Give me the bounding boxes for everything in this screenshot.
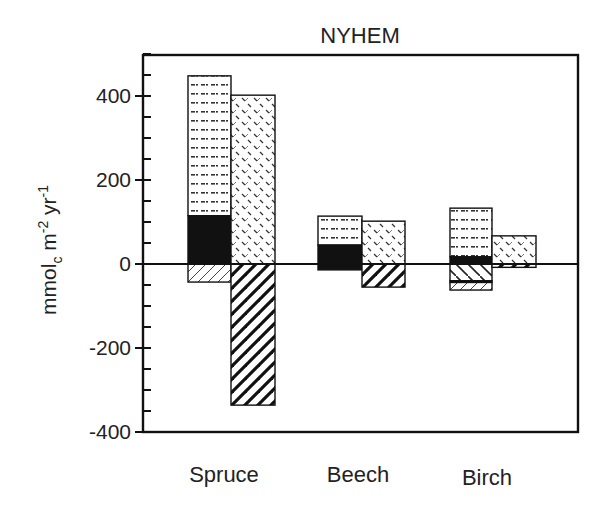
- y-tick-label: 0: [119, 252, 131, 275]
- bar-segment-dash-diagonal: [231, 95, 275, 264]
- bar-birch-left: [450, 208, 492, 290]
- bar-chart: NYHEM -400-2000200400 SpruceBeechBirch m…: [0, 0, 602, 510]
- bar-beech-left: [318, 216, 362, 270]
- y-tick-label: 200: [96, 168, 131, 191]
- bar-spruce-left: [188, 76, 231, 282]
- bar-segment-hatch-heavy-forward: [362, 264, 405, 287]
- y-axis-tick-labels: -400-2000200400: [89, 84, 131, 443]
- x-axis-category-labels: SpruceBeechBirch: [189, 462, 512, 490]
- y-tick-label: 400: [96, 84, 131, 107]
- bar-beech-right: [362, 221, 405, 287]
- bar-birch-right: [492, 236, 536, 267]
- bar-segment-dotted: [450, 208, 492, 257]
- y-axis-label: mmolc m-2 yr-1: [35, 185, 65, 315]
- bars-group: [188, 76, 536, 405]
- bar-segment-dotted: [318, 216, 362, 245]
- bar-segment-hatch-light-forward: [188, 264, 231, 282]
- x-category-label: Birch: [462, 465, 512, 490]
- bar-spruce-right: [231, 95, 275, 405]
- chart-title: NYHEM: [320, 23, 399, 48]
- y-tick-label: -200: [89, 336, 131, 359]
- bar-segment-dotted: [188, 76, 231, 216]
- bar-segment-solid-black: [188, 216, 231, 264]
- bar-segment-dash-diagonal: [362, 221, 405, 264]
- x-category-label: Beech: [327, 462, 389, 487]
- bar-segment-hatch-heavy-forward: [231, 264, 275, 405]
- y-tick-label: -400: [89, 420, 131, 443]
- x-category-label: Spruce: [189, 462, 259, 487]
- bar-segment-hatch-light-forward: [450, 282, 492, 290]
- bar-segment-dash-diagonal: [492, 236, 536, 264]
- bar-segment-hatch-back: [450, 264, 492, 281]
- bar-segment-solid-black: [450, 257, 492, 264]
- bar-segment-solid-black: [318, 245, 362, 270]
